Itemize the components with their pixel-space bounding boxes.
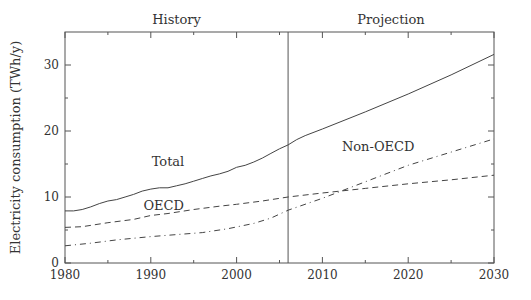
series-oecd <box>65 175 494 227</box>
series-group <box>65 54 494 245</box>
x-tick-label: 2020 <box>393 268 424 282</box>
plot-area: 1980199020002010202020300102030Electrici… <box>8 12 509 282</box>
region-label-projection: Projection <box>357 12 425 27</box>
y-tick-label: 10 <box>44 190 59 204</box>
plot-frame <box>65 32 494 263</box>
y-tick-label: 20 <box>44 124 59 138</box>
y-axis-label: Electricity consumption (TWh/y) <box>8 41 23 255</box>
x-tick-label: 2030 <box>479 268 510 282</box>
annotation-total: Total <box>152 154 185 169</box>
chart: 1980199020002010202020300102030Electrici… <box>0 0 531 300</box>
y-tick-label: 0 <box>51 256 59 270</box>
annotation-oecd: OECD <box>143 198 184 213</box>
region-label-history: History <box>152 12 201 27</box>
x-tick-label: 2010 <box>307 268 338 282</box>
x-tick-label: 1990 <box>136 268 167 282</box>
series-total <box>65 54 494 211</box>
series-non-oecd <box>65 139 494 246</box>
y-tick-label: 30 <box>44 58 59 72</box>
x-tick-label: 1980 <box>50 268 81 282</box>
annotation-non-oecd: Non-OECD <box>342 139 414 154</box>
x-tick-label: 2000 <box>221 268 252 282</box>
